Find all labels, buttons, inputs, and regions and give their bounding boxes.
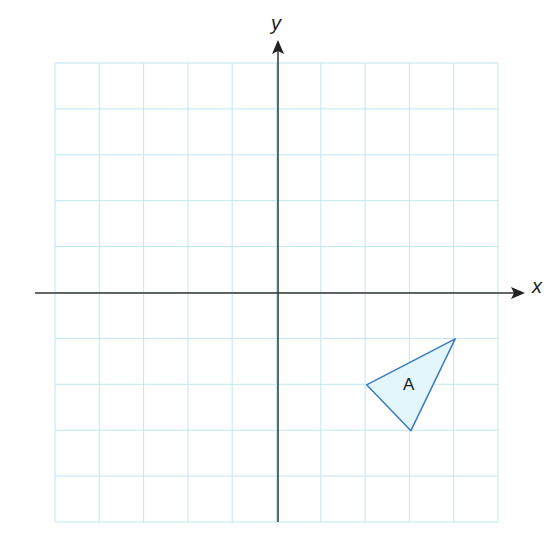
coordinate-plane bbox=[0, 0, 555, 535]
x-axis-label: x bbox=[532, 275, 542, 298]
triangle-a-label: A bbox=[403, 375, 414, 395]
y-axis-label: y bbox=[271, 12, 281, 35]
